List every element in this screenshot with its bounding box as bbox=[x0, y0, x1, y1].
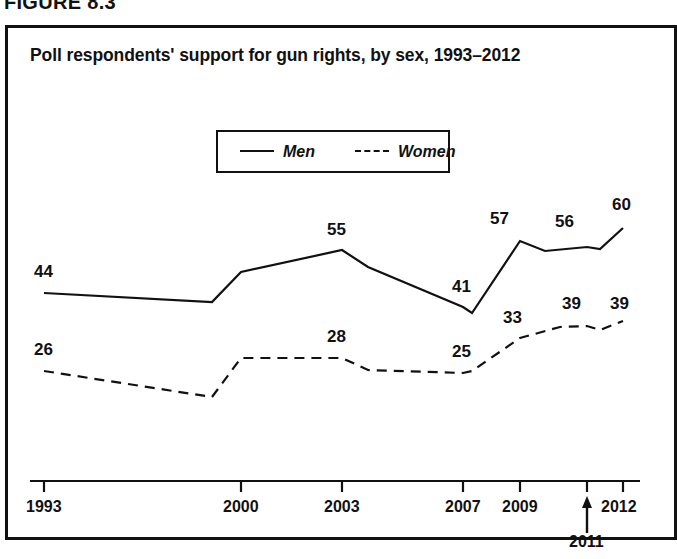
value-label-women-2009: 33 bbox=[503, 308, 522, 328]
x-tick-label-2012: 2012 bbox=[601, 498, 637, 516]
x-tick-label-1993: 1993 bbox=[26, 498, 62, 516]
value-label-women-2011: 39 bbox=[562, 294, 581, 314]
x-tick-label-2009: 2009 bbox=[502, 498, 538, 516]
value-label-women-2007: 25 bbox=[452, 342, 471, 362]
x-axis-ticks bbox=[44, 481, 623, 492]
annotation-label-2011: 2011 bbox=[569, 533, 604, 551]
value-label-men-2007: 41 bbox=[452, 277, 471, 297]
value-label-women-2003: 28 bbox=[327, 327, 346, 347]
value-label-men-2012: 60 bbox=[612, 195, 631, 215]
series-line-men bbox=[44, 228, 623, 313]
x-tick-label-2000: 2000 bbox=[223, 498, 259, 516]
value-label-women-1993: 26 bbox=[34, 340, 53, 360]
x-tick-label-2007: 2007 bbox=[445, 498, 481, 516]
value-label-men-2011: 56 bbox=[555, 212, 574, 232]
value-label-women-2012: 39 bbox=[610, 294, 629, 314]
up-arrow-icon bbox=[582, 496, 592, 533]
value-label-men-2009: 57 bbox=[490, 209, 509, 229]
value-label-men-2003: 55 bbox=[327, 220, 346, 240]
value-label-men-1993: 44 bbox=[34, 262, 53, 282]
x-tick-label-2003: 2003 bbox=[324, 498, 360, 516]
